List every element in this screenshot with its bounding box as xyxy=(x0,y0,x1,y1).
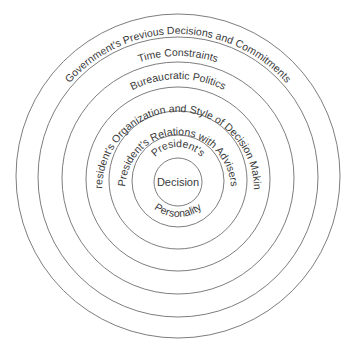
decision-influence-diagram: Government's Previous Decisions and Comm… xyxy=(0,0,352,358)
label-personality: Personality xyxy=(153,200,204,219)
label-decision: Decision xyxy=(157,176,199,188)
label-bureaucratic-politics: Bureaucratic Politics xyxy=(128,69,228,92)
label-time-constraints: Time Constraints xyxy=(136,46,220,64)
